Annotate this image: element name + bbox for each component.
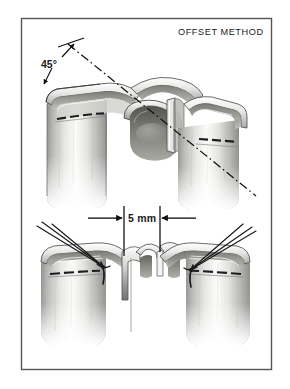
figure-title: OFFSET METHOD <box>178 27 264 37</box>
dimension-label: 5 mm <box>128 212 156 224</box>
right-bowel-segment-upper <box>178 120 239 209</box>
offset-method-figure: 45° <box>0 0 290 389</box>
angle-label: 45° <box>41 58 57 70</box>
figure-root: 45° <box>0 0 290 389</box>
